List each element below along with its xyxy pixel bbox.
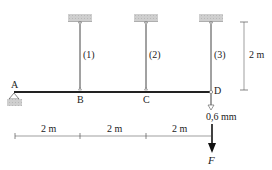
bar-1	[79, 22, 82, 90]
top-support-3	[199, 14, 223, 22]
bar-2-label: (2)	[149, 49, 161, 61]
top-support-2	[134, 14, 158, 22]
beam-diagram: (1) (2) (3) A B C D 2 m 0,6 mm 2 m 2 m 2…	[0, 0, 272, 170]
dimension-cd-label: 2 m	[172, 123, 188, 134]
bar-3	[210, 22, 213, 90]
top-support-1	[68, 14, 92, 22]
force-arrow	[208, 124, 216, 153]
dimension-ab-label: 2 m	[41, 123, 57, 134]
displacement-label: 0,6 mm	[206, 111, 237, 122]
dimension-bc-label: 2 m	[107, 123, 123, 134]
force-label: F	[207, 154, 215, 166]
vertical-dimension	[240, 22, 248, 90]
point-c-label: C	[143, 94, 150, 105]
vertical-dimension-label: 2 m	[249, 49, 265, 60]
bar-3-label: (3)	[214, 49, 226, 61]
point-b-label: B	[77, 94, 84, 105]
joint-d	[209, 90, 212, 93]
point-d-label: D	[214, 85, 221, 96]
point-a-label: A	[11, 79, 19, 90]
pin-support-a	[7, 93, 22, 106]
displacement-arrow	[208, 94, 214, 110]
bar-1-label: (1)	[83, 49, 95, 61]
bar-2	[145, 22, 148, 90]
